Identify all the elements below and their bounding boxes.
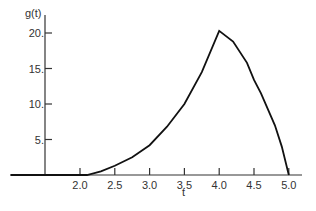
x-tick-label: 2.0 [72, 179, 87, 191]
y-tick-label: 15. [29, 63, 44, 75]
x-tick-label: 4.0 [212, 179, 227, 191]
x-tick-label: 4.5 [246, 179, 261, 191]
y-ticks: 5.10.15.20. [29, 27, 52, 146]
g-curve-line [10, 31, 288, 175]
y-tick-label: 20. [29, 27, 44, 39]
x-tick-label: 2.5 [107, 179, 122, 191]
y-axis-label: g(t) [25, 7, 42, 19]
x-tick-label: 5.0 [281, 179, 296, 191]
x-axis-label: t [182, 186, 185, 198]
y-tick-label: 5. [35, 134, 44, 146]
chart: 5.10.15.20. 2.02.53.03.54.04.55.0 g(t) t [0, 0, 316, 211]
x-tick-label: 3.0 [142, 179, 157, 191]
y-tick-label: 10. [29, 98, 44, 110]
